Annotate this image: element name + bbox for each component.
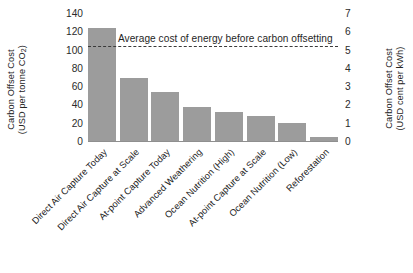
y-axis-left-tick-20: 20 <box>53 119 83 129</box>
y-axis-right-tick-4: 4 <box>345 64 375 74</box>
average-cost-threshold-label: Average cost of energy before carbon off… <box>118 33 333 44</box>
y-axis-left-tick-80: 80 <box>53 64 83 74</box>
bar-2 <box>151 92 179 142</box>
y-axis-left-title-line2: (USD per tonne CO2) <box>17 24 30 156</box>
y-axis-left-title-subscript: 2 <box>20 48 27 52</box>
y-axis-right-tick-7: 7 <box>345 9 375 19</box>
bar-0 <box>88 28 116 142</box>
x-axis-baseline <box>88 141 338 142</box>
y-axis-right-title: Carbon Offset Cost (USD cent per kWh) <box>384 23 405 155</box>
y-axis-left-tick-60: 60 <box>53 82 83 92</box>
y-axis-right-tick-6: 6 <box>345 27 375 37</box>
y-axis-left-tick-140: 140 <box>53 9 83 19</box>
bar-3 <box>183 107 211 142</box>
y-axis-left-title-line2-suffix: ) <box>17 45 27 48</box>
y-axis-right-tick-1: 1 <box>345 119 375 129</box>
bar-1 <box>120 78 148 142</box>
y-axis-left-title: Carbon Offset Cost (USD per tonne CO2) <box>6 24 29 156</box>
y-axis-right-title-line1: Carbon Offset Cost <box>384 48 394 128</box>
bar-4 <box>215 112 243 142</box>
y-axis-left-tick-120: 120 <box>53 27 83 37</box>
carbon-offset-cost-bar-chart: Carbon Offset Cost (USD per tonne CO2) C… <box>0 0 413 273</box>
y-axis-left-tick-40: 40 <box>53 100 83 110</box>
y-axis-left-tick-100: 100 <box>53 46 83 56</box>
y-axis-left-title-line1: Carbon Offset Cost <box>6 49 16 129</box>
y-axis-right-tick-5: 5 <box>345 46 375 56</box>
bar-5 <box>247 116 275 142</box>
y-axis-left-title-line2-prefix: (USD per tonne CO <box>17 52 27 134</box>
x-axis-category-labels: Direct Air Capture TodayDirect Air Captu… <box>0 145 413 273</box>
bar-6 <box>278 123 306 142</box>
y-axis-right-title-line2: (USD cent per kWh) <box>395 23 406 155</box>
y-axis-right-tick-2: 2 <box>345 100 375 110</box>
y-axis-right-tick-3: 3 <box>345 82 375 92</box>
average-cost-threshold-line <box>88 46 338 47</box>
